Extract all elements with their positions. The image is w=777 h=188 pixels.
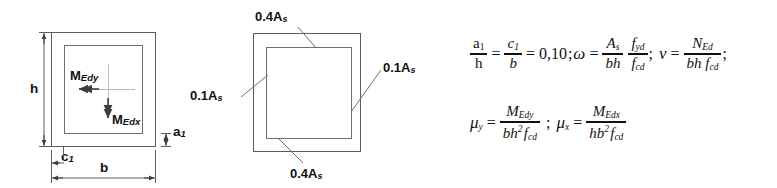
equals-1: = xyxy=(487,45,504,63)
moment-edy-label: MEdy xyxy=(70,69,98,83)
omega-as-over-bh: As bh xyxy=(602,36,623,71)
semicolon-4: ; xyxy=(545,114,551,132)
mu-x-fraction: MEdx hb2 fcd xyxy=(586,104,626,142)
equals-6: = xyxy=(569,114,586,132)
equals-4: = xyxy=(667,45,684,63)
dimension-c1-label: c1 xyxy=(61,150,74,164)
mu-x-symbol: μx xyxy=(556,113,569,133)
ratio-c1-over-b: c1 b xyxy=(504,36,521,71)
omega-symbol: ω xyxy=(573,44,585,64)
dimension-h-label: h xyxy=(30,82,38,96)
rebar-label-right: 0.1As xyxy=(383,61,415,75)
mu-y-fraction: MEdy bh2 fcd xyxy=(500,104,540,142)
centroid-axis-vertical xyxy=(108,64,109,118)
dimension-b-label: b xyxy=(100,161,108,175)
nu-symbol: ν xyxy=(659,44,667,64)
rebar-label-top: 0.4As xyxy=(255,10,287,24)
ratio-a1-over-h: a1 h xyxy=(470,36,487,71)
omega-fyd-over-fcd: fyd fcd xyxy=(628,36,647,72)
formula-line-2: μy = MEdy bh2 fcd ; μx = MEdx hb2 fcd xyxy=(470,104,626,142)
mu-y-symbol: μy xyxy=(470,113,483,133)
ratio-value: 0,10 xyxy=(539,45,567,63)
equals-5: = xyxy=(483,114,500,132)
semicolon-2: ; xyxy=(648,45,654,63)
nu-ned-over-bhfcd: NEd bh fcd xyxy=(684,36,722,72)
formula-line-1: a1 h = c1 b = 0,10 ; ω = As bh fyd xyxy=(470,36,728,72)
rebar-inner-outline xyxy=(266,47,352,139)
moment-edx-label: MEdx xyxy=(112,113,140,127)
equals-2: = xyxy=(522,45,539,63)
engineering-figure: MEdy MEdx h b c1 a1 0.4As 0.1As 0.1As 0.… xyxy=(0,0,777,188)
semicolon-3: ; xyxy=(721,45,727,63)
rebar-label-bottom: 0.4As xyxy=(290,167,322,181)
equals-3: = xyxy=(585,45,602,63)
dimension-a1-label: a1 xyxy=(173,125,186,139)
rebar-label-left: 0.1As xyxy=(190,89,222,103)
